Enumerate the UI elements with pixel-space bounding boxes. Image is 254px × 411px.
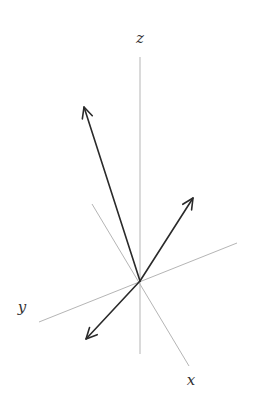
z-axis-label: z bbox=[136, 31, 144, 46]
vector-up-left bbox=[82, 107, 140, 281]
vector-down-left bbox=[86, 281, 140, 339]
vectors bbox=[82, 107, 193, 339]
y-axis-label: y bbox=[18, 300, 26, 315]
vector-diagram: z x y bbox=[0, 0, 254, 411]
arrowhead-icon bbox=[183, 198, 193, 210]
axes bbox=[39, 57, 237, 366]
diagram-canvas bbox=[0, 0, 254, 411]
x-axis-label: x bbox=[187, 373, 195, 388]
vector-up-right bbox=[140, 198, 193, 281]
